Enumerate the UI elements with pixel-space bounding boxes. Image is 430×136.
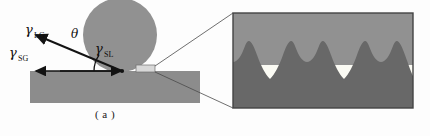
figure-wetting-diagram: γ LG γ SG γ SL θ ( a ) (0, 0, 430, 136)
panel-b-rough-surface: ( b ) (215, 0, 430, 136)
panel-b-canvas (215, 0, 430, 136)
